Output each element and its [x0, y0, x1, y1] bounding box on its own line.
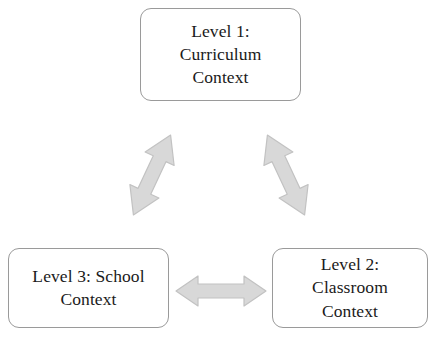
node-level-3-school-context: Level 3: School Context	[8, 248, 169, 328]
double-headed-arrow-icon-left-diagonal	[112, 125, 192, 225]
node-level-2-label: Level 2: Classroom Context	[306, 253, 394, 322]
diagram-canvas: Level 1: Curriculum Context Level 3: Sch…	[0, 0, 437, 341]
double-headed-arrow-icon-right-diagonal	[246, 125, 326, 225]
node-level-2-classroom-context: Level 2: Classroom Context	[272, 248, 428, 328]
node-level-1-label: Level 1: Curriculum Context	[174, 20, 268, 89]
node-level-3-label: Level 3: School Context	[26, 265, 150, 311]
double-headed-arrow-icon-bottom-horizontal	[172, 272, 270, 310]
node-level-1-curriculum-context: Level 1: Curriculum Context	[140, 8, 301, 101]
